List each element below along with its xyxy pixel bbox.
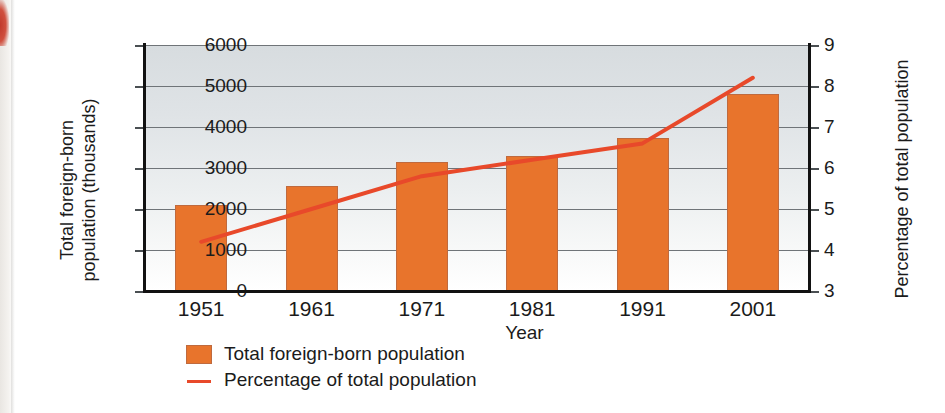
right-axis-tick [811, 291, 819, 293]
x-axis-tick-label: 1981 [472, 297, 592, 321]
left-axis-line [143, 43, 146, 293]
percentage-line [201, 78, 753, 242]
legend-item: Total foreign-born population [186, 341, 476, 367]
legend-label: Percentage of total population [224, 369, 476, 391]
left-axis-tick [135, 45, 143, 47]
left-axis-title-line2: population (thousands) [79, 49, 101, 331]
left-axis-tick-label: 1000 [205, 239, 247, 261]
x-axis-tick-label: 2001 [693, 297, 813, 321]
left-axis-tick-label: 6000 [205, 34, 247, 56]
right-axis-tick [811, 127, 819, 129]
right-axis-tick-label: 8 [824, 75, 835, 97]
right-axis-line [808, 43, 811, 293]
left-axis-tick [135, 168, 143, 170]
right-axis-title: Percentage of total population [892, 38, 914, 320]
right-axis-tick [811, 45, 819, 47]
right-axis-tick-label: 9 [824, 34, 835, 56]
chart-legend: Total foreign-born populationPercentage … [186, 341, 476, 393]
left-axis-tick-label: 2000 [205, 198, 247, 220]
left-axis-tick [135, 291, 143, 293]
right-axis-tick [811, 209, 819, 211]
x-axis-tick-label: 1991 [583, 297, 703, 321]
x-axis-tick-label: 1971 [362, 297, 482, 321]
left-axis-tick [135, 209, 143, 211]
x-axis-line [143, 290, 811, 293]
legend-line-swatch-icon [186, 371, 212, 390]
legend-bar-swatch-icon [186, 345, 212, 364]
left-axis-tick-label: 3000 [205, 157, 247, 179]
x-axis-tick-label: 1961 [252, 297, 372, 321]
right-axis-tick-label: 5 [824, 198, 835, 220]
left-axis-tick [135, 127, 143, 129]
left-axis-tick [135, 250, 143, 252]
legend-label: Total foreign-born population [224, 343, 465, 365]
left-axis-title-line1: Total foreign-born [57, 49, 79, 331]
left-axis-tick-label: 5000 [205, 75, 247, 97]
x-axis-tick-label: 1951 [141, 297, 261, 321]
right-axis-tick-label: 7 [824, 116, 835, 138]
right-axis-tick-label: 3 [824, 280, 835, 302]
right-axis-tick-label: 4 [824, 239, 835, 261]
legend-item: Percentage of total population [186, 367, 476, 393]
left-axis-tick-label: 4000 [205, 116, 247, 138]
combo-chart: 6000500040003000200010000 9876543 195119… [0, 0, 945, 413]
right-axis-tick-label: 6 [824, 157, 835, 179]
left-axis-tick [135, 86, 143, 88]
left-axis-title: Total foreign-born population (thousands… [57, 49, 101, 331]
right-axis-tick [811, 168, 819, 170]
right-axis-tick [811, 250, 819, 252]
right-axis-tick [811, 86, 819, 88]
